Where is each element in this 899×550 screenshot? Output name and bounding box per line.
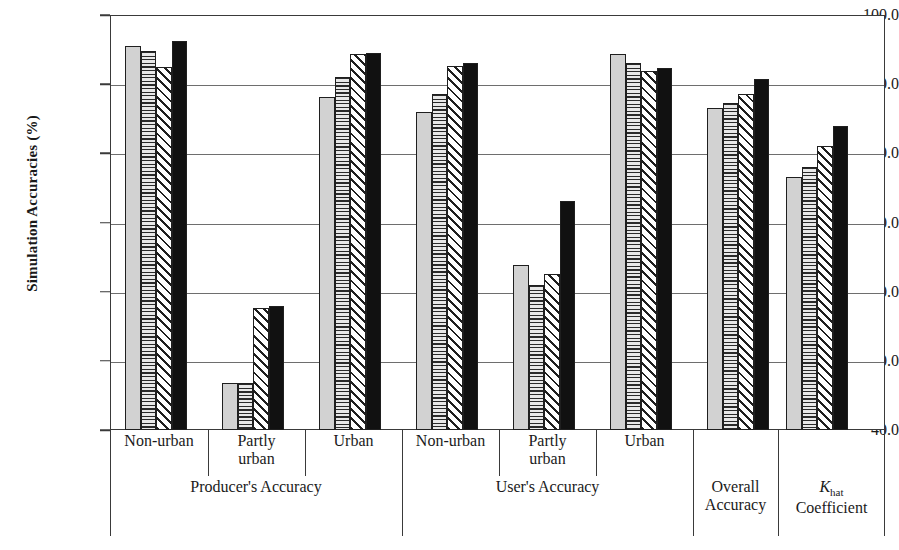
bar xyxy=(626,63,642,430)
category-label: Partlyurban xyxy=(499,430,596,478)
y-tick-mark xyxy=(100,291,110,293)
group-label-text: User's Accuracy xyxy=(496,478,600,496)
bar xyxy=(432,94,448,430)
bar xyxy=(222,383,238,430)
bar xyxy=(335,77,351,430)
group-label-band: Producer's AccuracyUser's AccuracyOveral… xyxy=(110,476,885,536)
bar xyxy=(707,108,723,430)
y-tick-mark xyxy=(100,14,110,16)
y-tick-mark xyxy=(100,222,110,224)
category-label xyxy=(693,430,778,478)
bar xyxy=(366,53,382,430)
bar xyxy=(641,71,657,430)
bar xyxy=(156,67,172,430)
group-separator xyxy=(110,430,111,536)
bar xyxy=(723,103,739,430)
bar xyxy=(238,383,254,430)
group-separator xyxy=(884,430,885,536)
bar xyxy=(544,274,560,430)
group-separator xyxy=(693,430,694,536)
bar xyxy=(529,285,545,430)
category-label-text: Urban xyxy=(625,432,665,450)
group-label: User's Accuracy xyxy=(402,476,693,524)
bar xyxy=(657,68,673,430)
bar xyxy=(319,97,335,430)
bar xyxy=(463,63,479,430)
group-label-text: OverallAccuracy xyxy=(705,478,766,515)
category-label-text: Urban xyxy=(334,432,374,450)
y-tick-mark xyxy=(100,360,110,362)
group-separator xyxy=(402,430,403,536)
category-separator xyxy=(305,430,306,476)
bars-layer xyxy=(110,15,885,430)
bar xyxy=(253,308,269,430)
bar xyxy=(817,146,833,430)
group-label: OverallAccuracy xyxy=(693,476,778,524)
group-label: KhatCoefficient xyxy=(778,476,885,524)
bar xyxy=(172,41,188,430)
y-tick-mark xyxy=(100,83,110,85)
bar xyxy=(802,167,818,430)
group-label-text: Producer's Accuracy xyxy=(190,478,321,496)
y-axis-title: Simulation Accuracies (%) xyxy=(24,4,41,404)
bar xyxy=(269,306,285,430)
bar-chart: Simulation Accuracies (%) 100.090.080.07… xyxy=(0,0,899,550)
y-tick-mark xyxy=(100,153,110,155)
category-label: Urban xyxy=(305,430,402,478)
bar xyxy=(754,79,770,430)
category-label: Partlyurban xyxy=(208,430,305,478)
category-label xyxy=(778,430,885,478)
category-label: Urban xyxy=(596,430,693,478)
category-label-text: Non-urban xyxy=(124,432,193,450)
y-tick-mark xyxy=(100,429,110,431)
group-separator xyxy=(778,430,779,536)
bar xyxy=(125,46,141,430)
bar xyxy=(416,112,432,430)
category-separator xyxy=(596,430,597,476)
category-label: Non-urban xyxy=(110,430,208,478)
category-label-band: Non-urbanPartlyurbanUrbanNon-urbanPartly… xyxy=(110,430,885,476)
bar xyxy=(738,94,754,430)
category-label-text: Non-urban xyxy=(416,432,485,450)
group-label-text: KhatCoefficient xyxy=(796,478,868,517)
category-separator xyxy=(499,430,500,476)
bar xyxy=(447,66,463,431)
bar xyxy=(833,126,849,430)
category-label: Non-urban xyxy=(402,430,499,478)
bar xyxy=(610,54,626,430)
bar xyxy=(513,265,529,430)
bar xyxy=(786,177,802,430)
bar xyxy=(560,201,576,430)
group-label: Producer's Accuracy xyxy=(110,476,402,524)
bar xyxy=(141,51,157,430)
category-separator xyxy=(208,430,209,476)
bar xyxy=(350,54,366,430)
category-label-text: Partlyurban xyxy=(528,432,566,468)
category-label-text: Partlyurban xyxy=(237,432,275,468)
